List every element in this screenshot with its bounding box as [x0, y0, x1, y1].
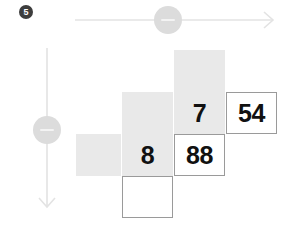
cell-r3c1[interactable]: [76, 134, 121, 176]
vertical-slider-handle[interactable]: [33, 116, 61, 144]
horizontal-slider-handle[interactable]: [154, 6, 182, 34]
handle-dash-icon: [161, 19, 175, 21]
cell-r3c3[interactable]: 88: [174, 134, 225, 176]
cell-r2c3[interactable]: 7: [174, 92, 225, 134]
canvas: 5 754888: [0, 0, 288, 226]
cell-r1c3[interactable]: [174, 50, 225, 92]
step-number-badge: 5: [19, 5, 33, 19]
cell-r3c2[interactable]: 8: [122, 134, 173, 176]
cell-r2c4[interactable]: 54: [226, 92, 277, 134]
cell-r2c2[interactable]: [122, 92, 173, 134]
handle-dash-icon: [40, 129, 54, 131]
cell-r4c2[interactable]: [122, 176, 173, 218]
